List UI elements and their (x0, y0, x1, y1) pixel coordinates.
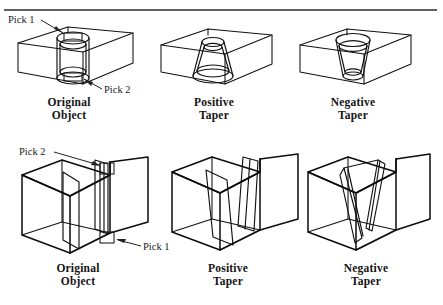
panel-positive-taper-slot: Positive Taper (172, 154, 298, 288)
block-hidden-left-edge (22, 160, 62, 235)
block-bottom-rear-edge (62, 222, 110, 233)
box-front-right-face (364, 35, 411, 84)
panel-original-slot: Pick 2 Pick 1 Original Object (19, 146, 170, 288)
caption-line1: Negative (344, 262, 388, 275)
caption-line1: Original (56, 262, 99, 275)
slot-right-wall-tapered (366, 160, 385, 231)
box-front-right-face (83, 33, 133, 84)
callout-pick-2-label: Pick 2 (104, 84, 131, 95)
block-hidden-left-edge (172, 157, 212, 232)
caption-line1: Positive (194, 96, 234, 108)
caption-line2: Object (61, 275, 95, 288)
caption-line2: Taper (213, 275, 243, 288)
box-front-right-face (225, 35, 272, 84)
callout-pick-1-arrowhead (116, 239, 126, 243)
taper-illustration-figure: Pick 1 Pick 2 Original Object Positive T… (0, 0, 443, 305)
caption-line2: Taper (338, 109, 368, 122)
block-left-front-face (308, 172, 356, 250)
block-left-front-face (172, 172, 220, 250)
block-bottom-rear-edge (212, 219, 260, 230)
frustum-bottom-ellipse (193, 69, 233, 83)
caption-line1: Original (47, 96, 90, 109)
panel-original-cylinder: Pick 1 Pick 2 Original Object (8, 14, 133, 122)
caption-line1: Positive (208, 262, 248, 274)
caption-line1: Negative (331, 96, 375, 109)
callout-pick-2-label: Pick 2 (19, 146, 46, 157)
block-right-front-face (110, 157, 148, 233)
frustum-inner-bottom-ellipse (197, 65, 229, 77)
box-top-face (300, 29, 411, 54)
block-hidden-left-edge (308, 157, 348, 232)
panel-negative-taper-slot: Negative Taper (308, 154, 430, 288)
callout-pick-1-label: Pick 1 (8, 14, 35, 25)
cylinder-top-ellipse (57, 32, 89, 44)
callout-pick-1-label: Pick 1 (143, 241, 170, 252)
caption-line2: Taper (351, 275, 381, 288)
slot-left-wall-tapered (340, 168, 362, 243)
caption-line2: Object (52, 109, 86, 122)
frustum-top-ellipse (336, 34, 370, 47)
caption-line2: Taper (199, 109, 229, 122)
block-right-front-face (396, 154, 430, 230)
block-bottom-inner-edge (220, 230, 260, 250)
block-notch-top-edge (220, 159, 260, 193)
slot-center-edge-a (245, 159, 250, 229)
block-right-front-face (260, 154, 298, 230)
panel-positive-taper-cylinder: Positive Taper (161, 29, 272, 122)
slot-left-wall (63, 172, 79, 249)
panel-negative-taper-cylinder: Negative Taper (300, 29, 411, 122)
